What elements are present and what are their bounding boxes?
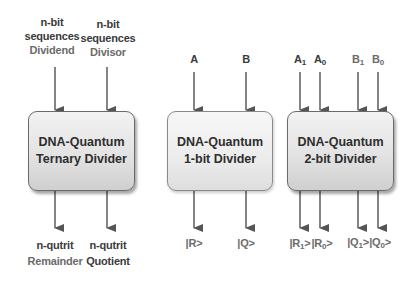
output-q1-label: |Q1>: [347, 235, 369, 249]
quotient-label-line1: n-qutrit: [90, 238, 127, 252]
quotient-label: Quotient: [86, 254, 130, 268]
one-bit-title-line2: 1-bit Divider: [184, 151, 256, 168]
two-bit-title-line1: DNA-Quantum: [297, 134, 383, 151]
input-a-label: A: [190, 52, 198, 66]
q0-pre: |Q: [369, 236, 380, 248]
two-bit-divider-block: DNA-Quantum 2-bit Divider: [287, 111, 394, 191]
b0-sub: 0: [380, 58, 384, 67]
a0-base: A: [314, 53, 322, 65]
dividend-label: Dividend: [30, 43, 75, 57]
q1-post: >: [363, 236, 369, 248]
ternary-title-line1: DNA-Quantum: [38, 134, 124, 151]
q1-pre: |Q: [347, 236, 358, 248]
one-bit-divider-block: DNA-Quantum 1-bit Divider: [167, 111, 273, 191]
q0-post: >: [385, 236, 391, 248]
output-r0-label: |R0>: [311, 236, 332, 250]
one-bit-title-line1: DNA-Quantum: [177, 134, 263, 151]
a0-sub: 0: [322, 58, 326, 67]
output-r-label: |R>: [186, 236, 203, 250]
remainder-label-line1: n-qutrit: [37, 238, 74, 252]
ternary-divider-block: DNA-Quantum Ternary Divider: [28, 111, 135, 191]
b1-base: B: [352, 53, 360, 65]
output-q-label: |Q>: [237, 236, 254, 250]
remainder-label: Remainder: [27, 254, 82, 268]
input-b0-label: B0: [372, 52, 384, 66]
divisor-label-line2: sequences: [80, 31, 135, 45]
dividend-label-line1: n-bit: [41, 15, 64, 29]
divisor-label: Divisor: [90, 45, 126, 59]
a1-sub: 1: [302, 58, 306, 67]
a1-base: A: [294, 53, 302, 65]
r0-pre: |R: [311, 237, 322, 249]
r0-post: >: [326, 237, 332, 249]
output-r1-label: |R1>: [289, 236, 310, 250]
dividend-label-line2: sequences: [24, 29, 79, 43]
r1-post: >: [304, 237, 310, 249]
ternary-title-line2: Ternary Divider: [36, 151, 127, 168]
b1-sub: 1: [360, 58, 364, 67]
output-q0-label: |Q0>: [369, 235, 391, 249]
divisor-label-line1: n-bit: [97, 17, 120, 31]
input-a1-label: A1: [294, 52, 306, 66]
input-b-label: B: [242, 52, 250, 66]
r1-pre: |R: [289, 237, 300, 249]
b0-base: B: [372, 53, 380, 65]
input-a0-label: A0: [314, 52, 326, 66]
input-b1-label: B1: [352, 52, 364, 66]
two-bit-title-line2: 2-bit Divider: [304, 151, 376, 168]
